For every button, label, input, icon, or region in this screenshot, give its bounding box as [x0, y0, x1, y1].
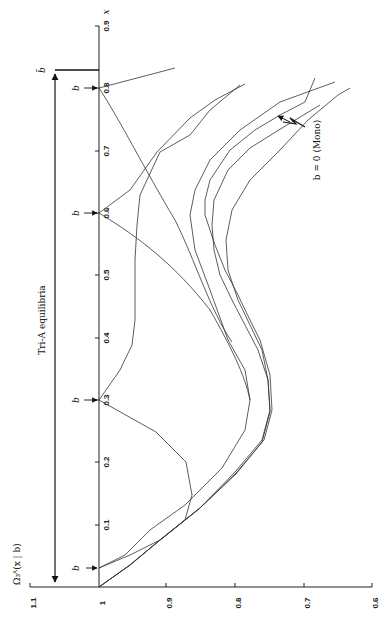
x-axis: 0.1 0.2 0.3 0.4 0.5 0.6 0.7 0.8 0.9 x — [95, 9, 111, 587]
curve-b-0-mono — [99, 78, 315, 587]
x-axis-label: x — [101, 9, 111, 14]
tri-a-span: Tri-A equilibria b̄ — [36, 67, 99, 582]
x-tick-label: 0.6 — [102, 207, 111, 219]
curve-b-0.6 — [99, 84, 250, 400]
x-tick-label: 0.2 — [102, 456, 111, 468]
y-tick-label: 1 — [98, 600, 107, 605]
curve-b-0.8 — [99, 68, 232, 342]
b-label: b — [71, 565, 81, 571]
y-tick-label: 0.9 — [165, 597, 174, 609]
curve-b-0-inner — [99, 105, 320, 587]
curve-b-0.3-left — [99, 400, 192, 568]
curve-b-0.3 — [99, 85, 240, 400]
x-tick-label: 0.4 — [102, 332, 111, 344]
y-tick-label: 0.8 — [234, 597, 243, 609]
y-tick-label: 0.6 — [371, 597, 380, 609]
b-markers: b b b b — [71, 85, 97, 571]
span-label: Tri-A equilibria — [37, 285, 47, 355]
x-tick-label: 0.1 — [102, 519, 111, 531]
y-axis: 1.1 1 0.9 0.8 0.7 0.6 Ω₃ᴬ(x | b) — [12, 543, 380, 608]
x-tick-label: 0.5 — [102, 269, 111, 281]
bbar-label: b̄ — [36, 67, 47, 73]
b-label: b — [71, 397, 81, 403]
y-tick-label: 1.1 — [29, 597, 38, 609]
mono-label: b = 0 (Mono) — [312, 120, 322, 180]
x-tick-label: 0.8 — [102, 82, 111, 94]
chart: 0.1 0.2 0.3 0.4 0.5 0.6 0.7 0.8 0.9 x 1.… — [0, 0, 382, 626]
x-tick-label: 0.9 — [102, 20, 111, 32]
x-tick-label: 0.7 — [102, 145, 111, 157]
y-tick-label: 0.7 — [303, 597, 312, 609]
b-label: b — [71, 85, 81, 91]
mono-annotation: b = 0 (Mono) — [278, 116, 322, 180]
y-axis-label: Ω₃ᴬ(x | b) — [12, 543, 23, 585]
b-label: b — [71, 210, 81, 216]
